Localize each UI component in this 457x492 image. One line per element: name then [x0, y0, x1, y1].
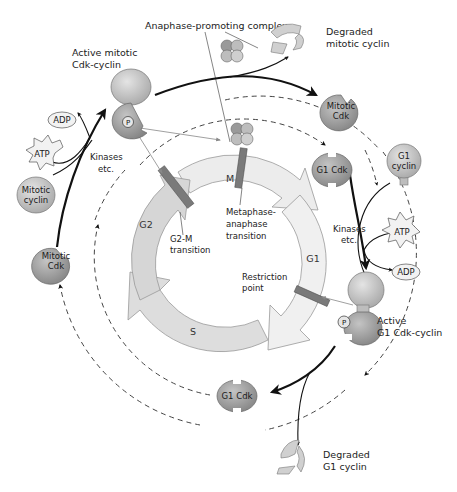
svg-text:G1: G1 [398, 151, 410, 161]
g1-cdk-bottom: G1 Cdk [217, 379, 257, 413]
restriction-point-label-1: Restriction [242, 272, 287, 282]
svg-text:Mitotic: Mitotic [22, 185, 51, 195]
mitotic-cdk-top-right: Mitotic Cdk [320, 95, 358, 131]
active-g1-label-2: G1 Cdk-cyclin [377, 327, 442, 338]
metaphase-anaphase-label-1: Metaphase- [226, 207, 276, 217]
active-mitotic-label-1: Active mitotic [72, 47, 137, 58]
mitotic-cdk-left: Mitotic Cdk [32, 248, 71, 284]
phosphate-label: P [126, 119, 130, 127]
degraded-g1-cyclin [277, 440, 305, 474]
svg-text:ADP: ADP [397, 267, 415, 277]
svg-text:ADP: ADP [53, 115, 71, 125]
degraded-g1-label-2: G1 cyclin [323, 461, 367, 472]
degraded-mitotic-label-1: Degraded [326, 26, 373, 37]
phase-m-label: M [226, 173, 234, 184]
kinases-left-label-2: etc. [98, 164, 114, 174]
g2-m-label-2: transition [170, 245, 211, 255]
degraded-mitotic-cyclin [271, 24, 304, 54]
metaphase-anaphase-label-2: anaphase [226, 219, 267, 229]
svg-text:ATP: ATP [394, 227, 409, 237]
cell-cycle-diagram: M G1 S G2 Anaphase-promoting [0, 0, 457, 492]
svg-text:Cdk: Cdk [48, 261, 64, 271]
adp-right: ADP [392, 264, 420, 280]
degraded-mitotic-label-2: mitotic cyclin [326, 38, 389, 49]
mitotic-cyclin: Mitotic cyclin [17, 177, 55, 213]
g1-cyclin: G1 cyclin [387, 144, 421, 185]
phase-g2-label: G2 [139, 219, 152, 230]
svg-text:Mitotic: Mitotic [327, 101, 356, 111]
g1-cdk-right: G1 Cdk [312, 152, 352, 188]
svg-text:ATP: ATP [34, 149, 49, 159]
kinases-left-label-1: Kinases [90, 152, 123, 162]
apc-complex-top [221, 40, 243, 62]
kinases-right-label-2: etc. [341, 235, 357, 245]
adp-left: ADP [48, 112, 76, 128]
phase-s-label: S [190, 326, 196, 337]
g2-m-label-1: G2-M [170, 234, 192, 244]
svg-text:cyclin: cyclin [24, 195, 49, 205]
active-mitotic-label-2: Cdk-cyclin [72, 59, 121, 70]
cell-cycle-ring: M G1 S G2 [128, 155, 326, 352]
active-g1-label-1: Active [377, 315, 407, 326]
restriction-point-label-2: point [242, 283, 264, 293]
svg-text:Cdk: Cdk [333, 111, 349, 121]
svg-text:G1 Cdk: G1 Cdk [222, 391, 253, 401]
metaphase-anaphase-label-3: transition [226, 231, 267, 241]
atp-left: ATP [26, 135, 63, 170]
apc-label: Anaphase-promoting complex [145, 20, 288, 31]
degraded-g1-label-1: Degraded [323, 449, 370, 460]
svg-text:Mitotic: Mitotic [42, 251, 71, 261]
svg-text:G1 Cdk: G1 Cdk [317, 165, 348, 175]
atp-right: ATP [382, 212, 420, 248]
phase-g1-label: G1 [306, 253, 319, 264]
kinases-right-label-1: Kinases [333, 224, 366, 234]
svg-text:cyclin: cyclin [392, 161, 417, 171]
svg-text:P: P [342, 319, 346, 327]
apc-complex-bound [231, 123, 253, 145]
